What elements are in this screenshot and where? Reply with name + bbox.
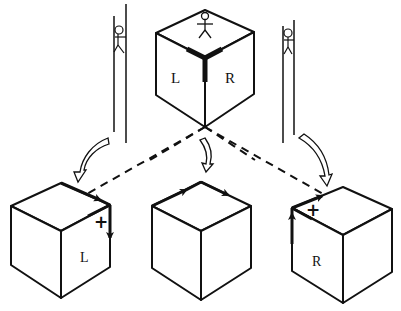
right-climber-icon xyxy=(284,29,294,54)
top-cube-left-face-label: L xyxy=(171,71,180,86)
curved-arrow-left-icon xyxy=(74,138,109,182)
bottom-right-face-label: R xyxy=(312,255,321,269)
left-climber-icon xyxy=(114,26,126,53)
bottom-left-cube xyxy=(11,183,110,298)
top-cube-right-face-label: R xyxy=(225,71,235,86)
cube-perspective-diagram: L R L + R + xyxy=(0,0,401,311)
bottom-left-face-label: L xyxy=(80,251,89,265)
bottom-right-plus-sign: + xyxy=(306,202,320,219)
left-pole xyxy=(114,4,126,143)
curved-arrow-right-icon xyxy=(299,134,332,186)
bottom-left-plus-sign: + xyxy=(94,214,108,231)
curved-arrow-center-icon xyxy=(200,138,213,172)
